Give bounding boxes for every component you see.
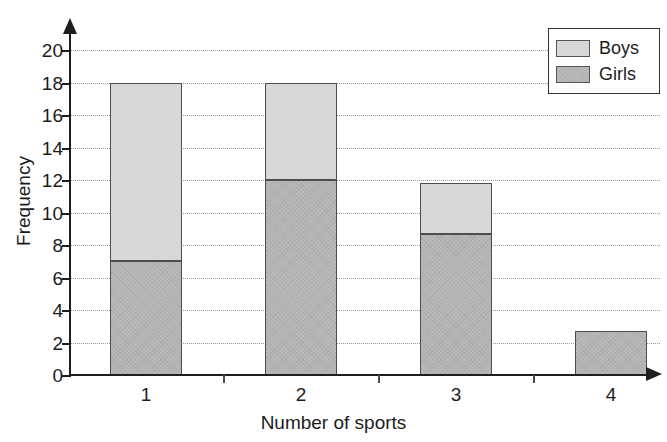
- y-tick-label: 20: [23, 41, 63, 60]
- y-tick-label: 4: [23, 301, 63, 320]
- y-tick: [62, 245, 71, 247]
- bar-segment-girls: [420, 234, 492, 375]
- x-axis-arrow-icon: [646, 367, 662, 381]
- bar-segment-girls: [265, 180, 337, 375]
- x-tick: [223, 375, 225, 383]
- x-tick: [533, 375, 535, 383]
- y-tick-label: 18: [23, 74, 63, 93]
- legend-label-girls: Girls: [599, 65, 636, 83]
- legend-swatch-boys-icon: [556, 40, 590, 57]
- bar-segment-boys: [110, 83, 182, 262]
- x-tick-label: 3: [426, 384, 486, 406]
- bar-category-1: [110, 83, 182, 376]
- x-axis-title: Number of sports: [0, 412, 667, 434]
- y-tick-label: 0: [23, 366, 63, 385]
- legend-item-girls: Girls: [556, 61, 652, 87]
- legend-item-boys: Boys: [556, 35, 652, 61]
- bar-segment-girls: [575, 331, 647, 375]
- bar-category-3: [420, 183, 492, 375]
- x-tick-label: 4: [581, 384, 641, 406]
- x-axis-line: [70, 374, 648, 376]
- bar-segment-boys: [265, 83, 337, 181]
- bar-segment-boys: [420, 183, 492, 233]
- y-tick: [62, 310, 71, 312]
- plot-area: [70, 50, 660, 375]
- y-tick: [62, 343, 71, 345]
- y-tick: [62, 180, 71, 182]
- y-tick-label: 2: [23, 334, 63, 353]
- y-tick: [62, 375, 71, 377]
- y-tick: [62, 115, 71, 117]
- bar-segment-girls: [110, 261, 182, 375]
- y-tick: [62, 278, 71, 280]
- y-tick: [62, 83, 71, 85]
- x-tick-label: 2: [271, 384, 331, 406]
- bar-category-2: [265, 83, 337, 376]
- legend-swatch-girls-icon: [556, 66, 590, 83]
- bar-category-4: [575, 331, 647, 375]
- y-axis-title: Frequency: [13, 101, 35, 301]
- y-axis-arrow-icon: [63, 18, 77, 34]
- y-tick: [62, 50, 71, 52]
- legend-label-boys: Boys: [599, 39, 639, 57]
- stacked-bar-chart: 0 2 4 6 8 10 12 14 16 18 20 1 2 3 4 Numb…: [0, 0, 667, 442]
- legend: Boys Girls: [548, 28, 660, 94]
- x-tick-label: 1: [116, 384, 176, 406]
- x-tick: [378, 375, 380, 383]
- y-tick: [62, 148, 71, 150]
- y-tick: [62, 213, 71, 215]
